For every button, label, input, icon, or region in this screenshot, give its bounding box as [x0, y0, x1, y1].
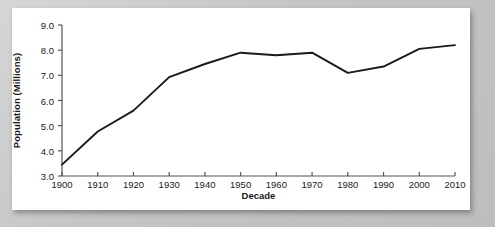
chart-figure: Population (Millions) Decade 3.04.05.06.…	[0, 0, 495, 227]
x-tick-label: 2010	[435, 179, 475, 190]
x-tick-label: 1950	[221, 179, 261, 190]
y-tick-label: 8.0	[28, 45, 54, 56]
x-tick-label: 1920	[113, 179, 153, 190]
x-tick-label: 1980	[328, 179, 368, 190]
axis-lines	[62, 25, 455, 176]
x-tick-label: 1970	[292, 179, 332, 190]
y-tick-label: 6.0	[28, 95, 54, 106]
y-tick-label: 9.0	[28, 20, 54, 31]
x-tick-label: 1930	[149, 179, 189, 190]
y-tick-label: 4.0	[28, 145, 54, 156]
x-tick-label: 1910	[78, 179, 118, 190]
x-tick-label: 2000	[399, 179, 439, 190]
y-tick-label: 5.0	[28, 120, 54, 131]
axes-and-series	[0, 0, 495, 227]
x-tick-label: 1960	[256, 179, 296, 190]
x-tick-label: 1900	[42, 179, 82, 190]
x-tick-label: 1990	[364, 179, 404, 190]
population-line-series	[62, 45, 455, 165]
plot-area: Population (Millions) Decade 3.04.05.06.…	[0, 0, 495, 227]
y-tick-label: 7.0	[28, 70, 54, 81]
x-tick-label: 1940	[185, 179, 225, 190]
